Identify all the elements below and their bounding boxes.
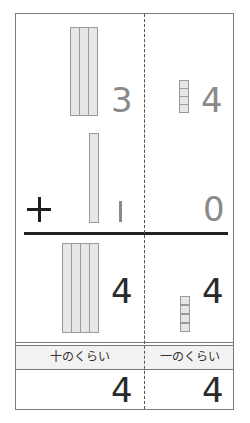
ones-cube: [180, 314, 190, 323]
ones-cube: [180, 296, 190, 305]
tens-place-label: 十のくらい: [16, 350, 144, 364]
ones-cube: [180, 323, 190, 332]
place-value-divider-overlay: [144, 14, 145, 409]
addend1-tens-digit: 3: [111, 83, 133, 117]
answer-tens-digit: 4: [111, 373, 133, 407]
sum-line: [24, 232, 228, 235]
label-divider: [16, 342, 233, 343]
tens-rod: [89, 243, 99, 333]
tens-rod: [89, 133, 99, 223]
sum-ones-digit: 4: [202, 274, 224, 308]
addend1-ones-digit: 4: [201, 83, 223, 117]
ones-place-label: 一のくらい: [146, 350, 234, 364]
plus-sign-icon: [27, 196, 53, 224]
sum-tens-digit: 4: [111, 274, 133, 308]
ones-cube: [179, 104, 189, 113]
tens-rod: [88, 27, 98, 116]
addend2-ones-digit: 0: [203, 192, 225, 226]
ones-cube: [180, 305, 190, 314]
answer-ones-digit: 4: [202, 373, 224, 407]
addend2-tens-digit: [119, 201, 122, 222]
